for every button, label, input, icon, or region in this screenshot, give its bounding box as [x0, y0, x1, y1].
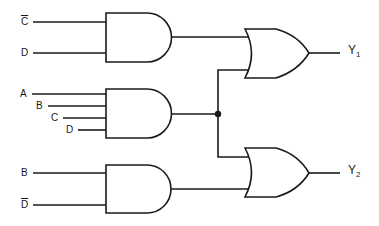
- and-gate-1: [106, 13, 172, 62]
- output-y2-main: Y: [348, 163, 356, 177]
- and-gate-2: [106, 89, 171, 138]
- output-y1-sub: 1: [356, 50, 360, 59]
- output-y1-main: Y: [348, 43, 356, 57]
- label-d-bar: D: [21, 200, 28, 210]
- label-d-2: D: [66, 125, 73, 135]
- output-y2-label: Y2: [348, 165, 360, 180]
- label-b-2: B: [21, 168, 28, 178]
- and-gate-3: [106, 165, 171, 213]
- junction-dot: [215, 111, 221, 117]
- label-c: C: [51, 113, 58, 123]
- or-gate-1: [245, 29, 309, 78]
- wire-junction-branch: [218, 70, 250, 157]
- label-a: A: [20, 89, 27, 99]
- label-d: D: [21, 48, 28, 58]
- output-y2-sub: 2: [356, 170, 360, 179]
- label-b: B: [36, 101, 43, 111]
- or-gate-2: [245, 148, 309, 197]
- output-y1-label: Y1: [348, 45, 360, 60]
- label-c-bar: C: [21, 17, 28, 27]
